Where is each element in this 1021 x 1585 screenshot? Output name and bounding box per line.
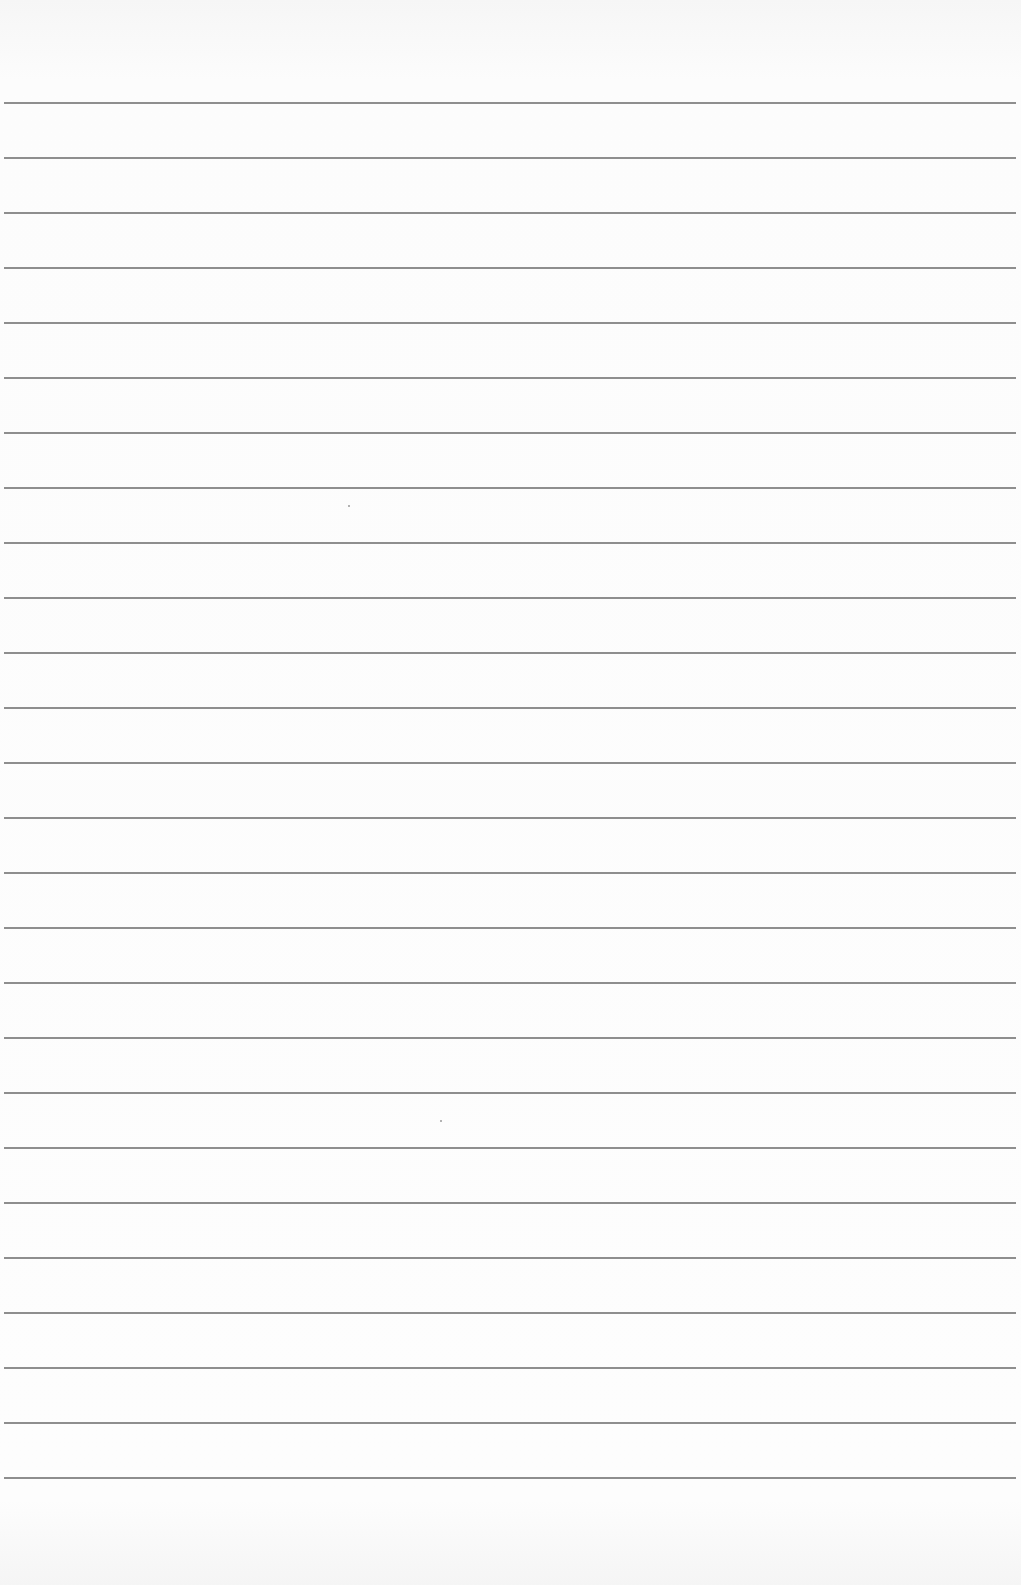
ruled-line (4, 982, 1016, 984)
ruled-line (4, 762, 1016, 764)
ruled-line (4, 707, 1016, 709)
ruled-line (4, 322, 1016, 324)
ruled-line (4, 267, 1016, 269)
ruled-line (4, 157, 1016, 159)
ruled-line (4, 1367, 1016, 1369)
ruled-line (4, 1312, 1016, 1314)
ruled-line (4, 1257, 1016, 1259)
ruled-line (4, 432, 1016, 434)
ruled-line (4, 1092, 1016, 1094)
ruled-line (4, 1422, 1016, 1424)
ruled-line (4, 817, 1016, 819)
ruled-line (4, 1037, 1016, 1039)
lined-paper-sheet (0, 0, 1021, 1585)
ruled-line (4, 102, 1016, 104)
ruled-line (4, 597, 1016, 599)
ruled-line (4, 487, 1016, 489)
ruled-line (4, 1477, 1016, 1479)
ruled-line (4, 212, 1016, 214)
ruled-line (4, 542, 1016, 544)
ruled-line (4, 377, 1016, 379)
ruled-line (4, 927, 1016, 929)
ruled-line (4, 872, 1016, 874)
ruled-line (4, 652, 1016, 654)
paper-speck (348, 505, 350, 507)
ruled-line (4, 1202, 1016, 1204)
paper-speck (440, 1120, 442, 1122)
ruled-line (4, 1147, 1016, 1149)
